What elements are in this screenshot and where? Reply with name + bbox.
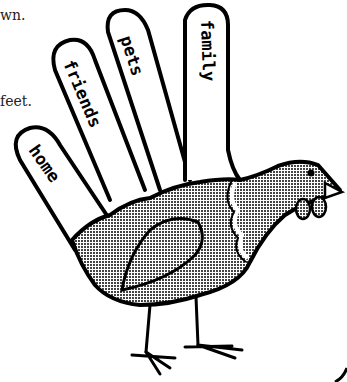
finger-family: family bbox=[185, 5, 240, 180]
turkey-wattle bbox=[296, 199, 310, 219]
hand-turkey-illustration: home friends pets family bbox=[0, 0, 347, 382]
finger-label-family: family bbox=[197, 19, 219, 81]
page-corner-curve bbox=[335, 368, 347, 382]
turkey-legs bbox=[132, 297, 242, 374]
turkey-eye bbox=[308, 170, 315, 177]
